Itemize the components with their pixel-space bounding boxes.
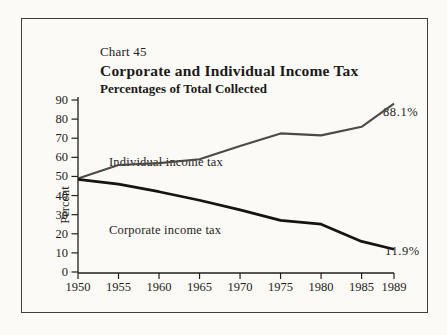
- x-tick-label: 1985: [349, 280, 374, 294]
- x-tick-label: 1970: [228, 280, 253, 294]
- y-tick-label: 40: [56, 189, 69, 203]
- x-tick-label: 1975: [268, 280, 293, 294]
- y-tick-label: 80: [56, 112, 69, 126]
- y-tick-label: 50: [56, 169, 69, 183]
- y-tick-label: 20: [56, 227, 69, 241]
- corporate-income-tax-line: [78, 179, 394, 249]
- x-tick-label: 1950: [66, 280, 91, 294]
- y-tick-label: 30: [56, 208, 69, 222]
- individual-income-tax-line: [78, 104, 394, 179]
- y-tick-label: 0: [62, 265, 68, 279]
- line-chart-plot: 0102030405060708090195019551960196519701…: [0, 0, 447, 335]
- x-tick-label: 1960: [147, 280, 172, 294]
- y-tick-label: 70: [56, 131, 69, 145]
- y-tick-label: 90: [56, 93, 69, 107]
- x-tick-label: 1965: [187, 280, 212, 294]
- y-tick-label: 60: [56, 150, 69, 164]
- x-tick-label: 1989: [382, 280, 407, 294]
- book-page: Chart 45 Corporate and Individual Income…: [0, 0, 447, 335]
- x-tick-label: 1980: [309, 280, 334, 294]
- y-tick-label: 10: [56, 246, 69, 260]
- x-tick-label: 1955: [106, 280, 131, 294]
